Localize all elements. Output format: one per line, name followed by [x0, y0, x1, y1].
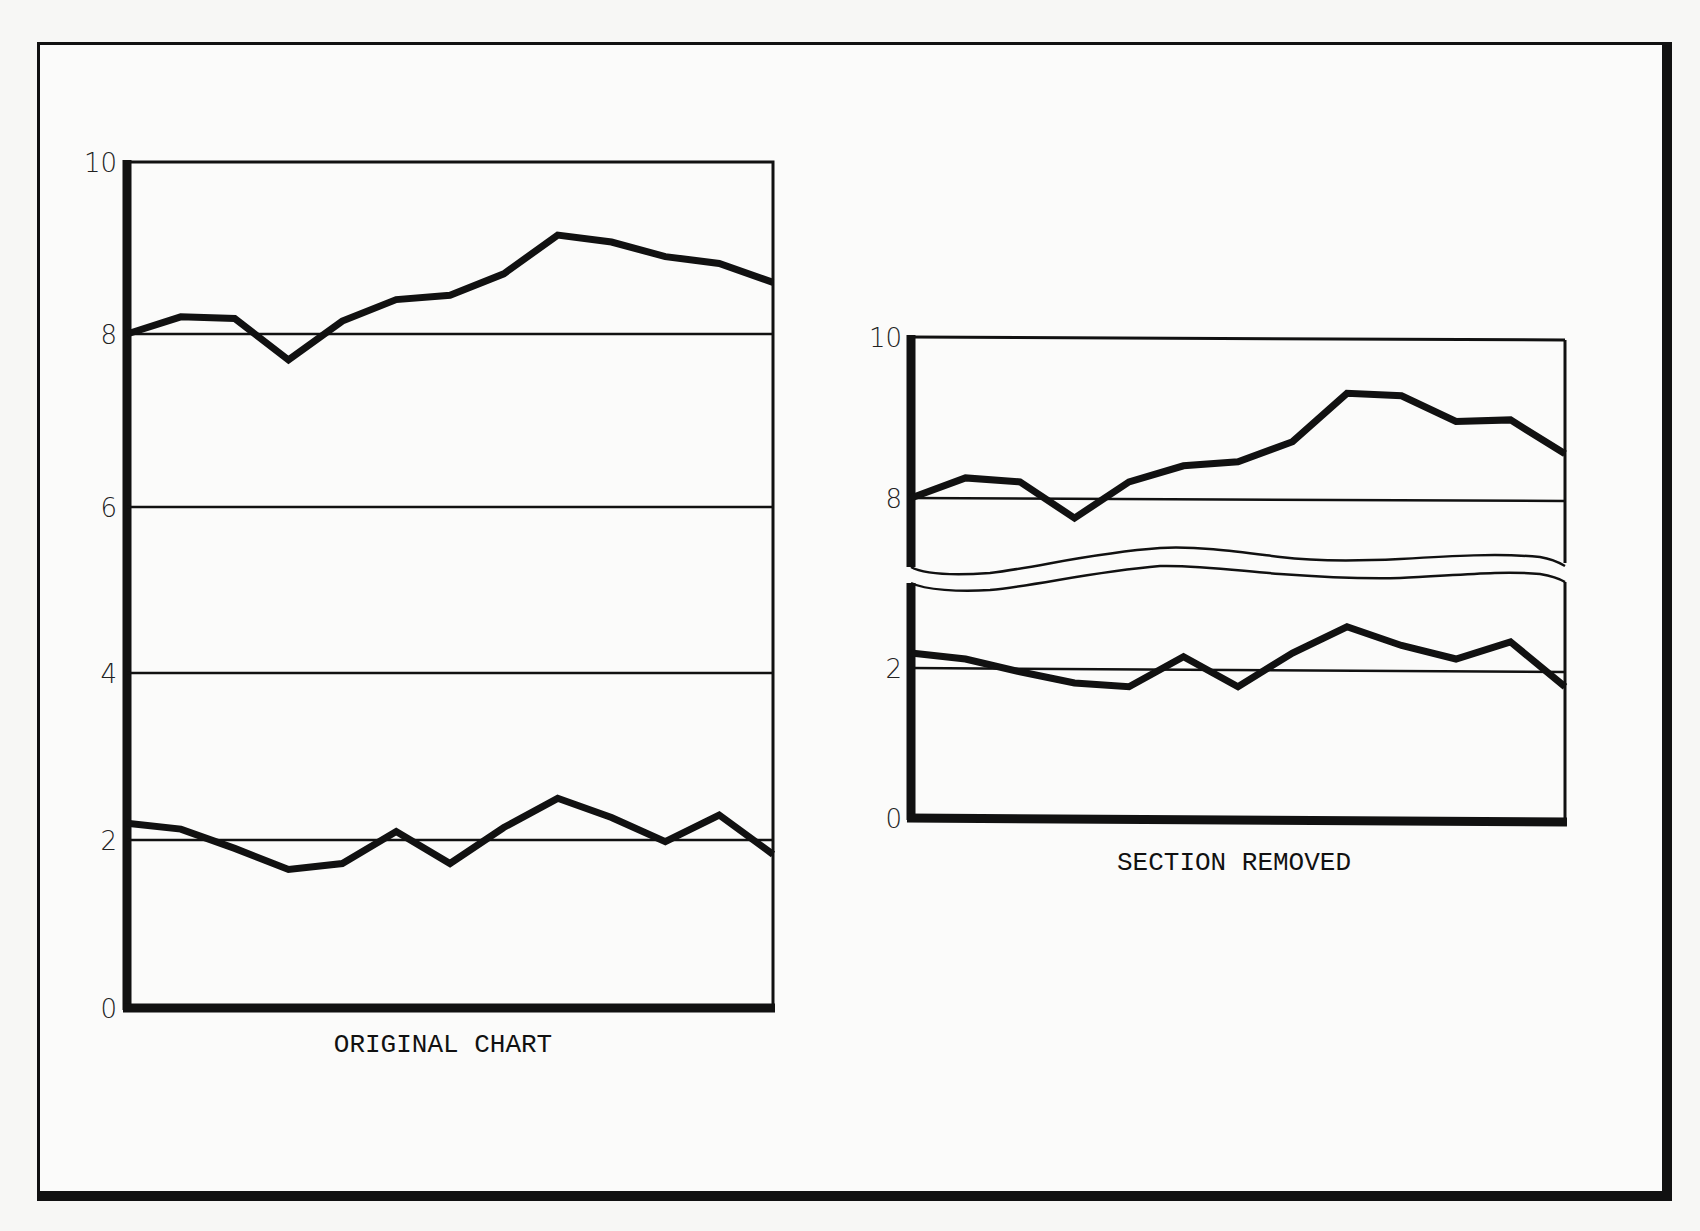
plot-border: [127, 162, 773, 1008]
y-tick-label: 0: [100, 994, 117, 1024]
y-tick-label: 6: [100, 493, 117, 523]
axis-break-wave: [911, 548, 1565, 591]
y-tick-label: 10: [84, 148, 117, 178]
y-tick-labels: 1086420: [84, 148, 117, 1024]
y-tick-label: 4: [100, 659, 117, 689]
plot-border: [907, 335, 1567, 822]
y-tick-label: 2: [100, 826, 117, 856]
x-axis: [907, 818, 1567, 822]
chart-caption: ORIGINAL CHART: [334, 1030, 552, 1060]
chart-caption: SECTION REMOVED: [1117, 848, 1351, 878]
top-border: [911, 337, 1565, 340]
y-tick-label: 2: [885, 654, 902, 684]
series-line-upper: [127, 235, 773, 360]
y-tick-labels: 10820: [869, 323, 902, 834]
series-line-lower: [911, 627, 1565, 687]
series-line-lower: [127, 798, 773, 869]
data-lines: [127, 235, 773, 869]
gridlines: [127, 334, 773, 840]
gridlines: [911, 498, 1565, 672]
y-tick-label: 10: [869, 323, 902, 353]
original-chart: 1086420 ORIGINAL CHART: [84, 148, 775, 1060]
y-tick-label: 8: [885, 484, 902, 514]
charts-canvas: 1086420 ORIGINAL CHART 10820 SECTION REM…: [0, 0, 1700, 1231]
y-tick-label: 8: [100, 320, 117, 350]
section-removed-chart: 10820 SECTION REMOVED: [869, 323, 1567, 878]
gridline: [911, 498, 1565, 501]
y-tick-label: 0: [885, 804, 902, 834]
data-lines: [911, 393, 1565, 687]
